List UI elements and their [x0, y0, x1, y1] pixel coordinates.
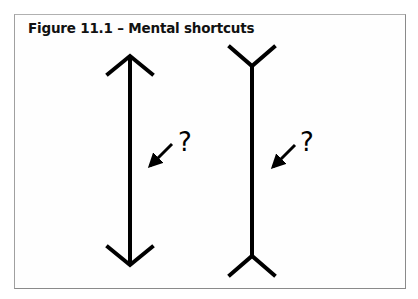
left-arrow-figure	[108, 56, 152, 265]
left-pointer-arrow-icon	[150, 144, 172, 166]
right-pointer-arrow-icon	[273, 145, 295, 167]
right-question-mark: ?	[300, 127, 314, 157]
right-fin-figure	[230, 47, 274, 275]
muller-lyer-illusion: ? ?	[0, 0, 418, 299]
left-question-mark: ?	[178, 127, 192, 157]
